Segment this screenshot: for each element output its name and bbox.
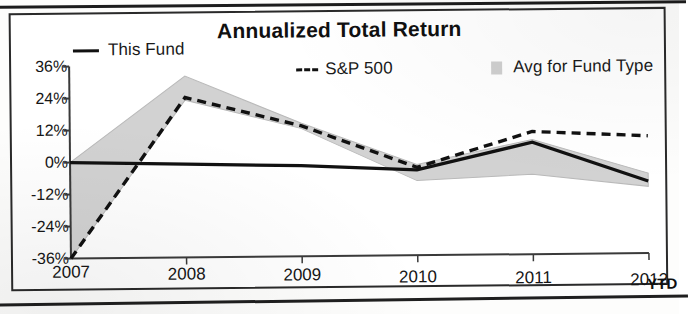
legend-item-this-fund: This Fund: [73, 39, 185, 60]
chart-panel-wrapper: Annualized Total Return This Fund S&P 50…: [0, 0, 680, 314]
chart-panel: Annualized Total Return This Fund S&P 50…: [9, 7, 669, 291]
legend-label-this-fund: This Fund: [108, 39, 185, 60]
y-axis-tick-label: 12%: [12, 122, 68, 141]
y-axis-tick-label: 0%: [12, 154, 68, 173]
x-axis-tick-label: 2009: [283, 265, 321, 285]
x-axis-tick-label: 2008: [168, 264, 206, 284]
x-axis-tick-label: 2007: [52, 262, 90, 282]
x-axis-tick-label: 2011: [515, 268, 552, 288]
x-axis-tick-label: 2010: [399, 267, 437, 287]
y-axis-tick-labels: 36%24%12%0%-12%-24%-36%: [9, 67, 69, 260]
plot-area: [69, 61, 649, 259]
x-axis-tick-labels: 200720082009201020112012YTD: [71, 257, 671, 297]
chart-svg: [69, 61, 649, 259]
y-axis-tick-label: -24%: [13, 218, 69, 237]
x-axis-ytd-note: YTD: [647, 274, 677, 291]
y-axis-tick-label: 24%: [11, 90, 67, 109]
y-axis-tick-label: 36%: [11, 58, 67, 77]
y-axis-tick-label: -12%: [12, 186, 68, 205]
solid-line-swatch-icon: [73, 49, 99, 52]
